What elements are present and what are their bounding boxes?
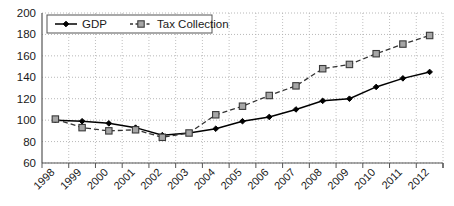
- data-point-1-2001: [132, 127, 138, 133]
- x-tick-label-2005: 2005: [218, 166, 244, 192]
- y-tick-label-80: 80: [23, 136, 36, 148]
- x-tick-label-1999: 1999: [58, 166, 84, 192]
- data-point-1-2004: [213, 112, 219, 118]
- legend-marker-1: [138, 21, 144, 27]
- x-tick-label-1998: 1998: [31, 166, 57, 192]
- y-tick-label-180: 180: [17, 28, 36, 40]
- x-tick-label-2002: 2002: [138, 166, 164, 192]
- data-point-1-2003: [186, 130, 192, 136]
- chart-legend: GDPTax Collection: [47, 15, 229, 33]
- data-point-1-2000: [106, 128, 112, 134]
- x-tick-label-2010: 2010: [352, 166, 378, 192]
- x-tick-label-2004: 2004: [191, 166, 217, 192]
- data-point-1-2008: [320, 66, 326, 72]
- chart-canvas: 6080100120140160180200 19981999200020012…: [0, 0, 454, 206]
- y-tick-label-160: 160: [17, 50, 36, 62]
- x-tick-label-2011: 2011: [379, 166, 404, 191]
- data-point-1-2006: [266, 92, 272, 98]
- legend-label-gdp: GDP: [82, 18, 107, 30]
- x-tick-label-2008: 2008: [298, 166, 324, 192]
- x-tick-label-2007: 2007: [272, 166, 298, 192]
- x-tick-label-2012: 2012: [405, 166, 431, 192]
- x-tick-label-2000: 2000: [84, 166, 110, 192]
- data-point-1-1999: [79, 124, 85, 130]
- data-point-1-2010: [373, 51, 379, 57]
- x-tick-label-2006: 2006: [245, 166, 271, 192]
- x-tick-label-2003: 2003: [165, 166, 191, 192]
- data-point-1-2009: [346, 61, 352, 67]
- x-tick-label-2009: 2009: [325, 166, 351, 192]
- y-tick-label-60: 60: [23, 157, 36, 169]
- y-tick-label-120: 120: [17, 93, 36, 105]
- y-tick-label-140: 140: [17, 71, 36, 83]
- data-point-1-2007: [293, 83, 299, 89]
- legend-label-tax-collection: Tax Collection: [157, 18, 229, 30]
- y-tick-label-200: 200: [17, 7, 36, 19]
- data-point-1-2012: [426, 32, 432, 38]
- y-tick-label-100: 100: [17, 114, 36, 126]
- plot-area-background: [42, 13, 443, 163]
- y-axis-tick-labels: 6080100120140160180200: [17, 7, 36, 169]
- line-chart: 6080100120140160180200 19981999200020012…: [0, 0, 454, 206]
- data-point-1-2002: [159, 134, 165, 140]
- data-point-1-2005: [239, 103, 245, 109]
- x-axis-tick-labels: 1998199920002001200220032004200520062007…: [31, 166, 431, 192]
- data-point-1-2011: [400, 41, 406, 47]
- x-tick-label-2001: 2001: [111, 166, 137, 192]
- data-point-1-1998: [52, 116, 58, 122]
